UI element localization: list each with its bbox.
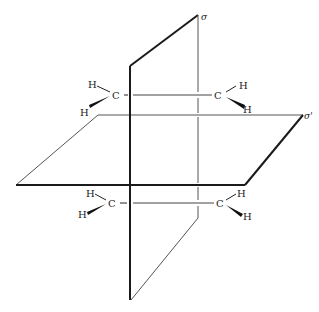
upper-right-h-top: H — [239, 80, 248, 91]
upper-right-carbon: C — [214, 90, 222, 101]
lower-left-h-top: H — [86, 188, 95, 199]
sigma-prime-label: σ' — [304, 111, 313, 121]
lower-right-carbon: C — [216, 198, 224, 209]
upper-left-h-bottom: H — [80, 107, 89, 118]
lower-right-h-bottom: H — [243, 211, 252, 222]
sigma-label: σ — [201, 12, 208, 22]
sigma-plane — [130, 15, 198, 300]
upper-left-carbon: C — [112, 90, 120, 101]
diagram-svg: σ σ' C C H H H H C C H H H H — [0, 0, 319, 312]
upper-left-h-top: H — [88, 79, 97, 90]
lower-right-h-top: H — [237, 188, 246, 199]
symmetry-diagram: σ σ' C C H H H H C C H H H H — [0, 0, 319, 312]
lower-ethylene: C C H H H H — [78, 188, 252, 222]
sigma-prime-plane — [16, 115, 303, 185]
lower-left-carbon: C — [108, 198, 116, 209]
upper-right-h-bottom: H — [243, 104, 252, 115]
upper-ethylene: C C H H H H — [80, 79, 252, 118]
lower-left-h-bottom: H — [78, 209, 87, 220]
